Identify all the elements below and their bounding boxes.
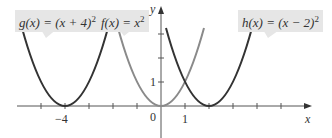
y-axis-label: y xyxy=(150,2,155,17)
x-tick-label-1: 1 xyxy=(182,112,188,127)
g-label-text: g(x) = (x + 4) xyxy=(19,15,91,30)
y-tick-label-1: 1 xyxy=(150,75,156,90)
f-label-text: f(x) = x xyxy=(101,15,140,30)
origin-label: 0 xyxy=(150,110,156,125)
y-axis-arrow-icon xyxy=(158,6,164,14)
curve-g xyxy=(22,28,108,106)
curve-h xyxy=(166,28,252,106)
x-axis-arrow-icon xyxy=(304,103,312,109)
h-label-exponent: 2 xyxy=(314,14,319,24)
x-tick-label-neg4: −4 xyxy=(55,112,68,127)
f-label: f(x) = x2 xyxy=(97,10,149,32)
x-axis-label: x xyxy=(305,112,310,127)
g-label-exponent: 2 xyxy=(91,14,96,24)
g-label: g(x) = (x + 4)2 xyxy=(15,10,100,32)
f-label-exponent: 2 xyxy=(140,14,145,24)
h-label-text: h(x) = (x − 2) xyxy=(242,15,314,30)
h-label: h(x) = (x − 2)2 xyxy=(238,10,323,32)
